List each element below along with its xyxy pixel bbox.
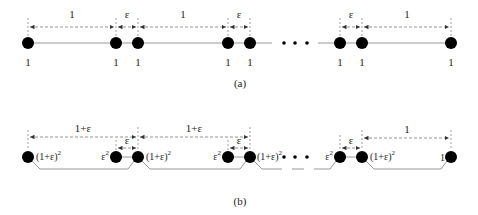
- node: [222, 151, 234, 163]
- spacing-label: ε: [349, 134, 354, 146]
- node: [132, 37, 144, 49]
- panel-a-node-labels: 1 1 1 1 1 1 1 1: [25, 56, 454, 68]
- panel-b: 1+ε ε 1+ε ε ε 1 (1+ε)2 (1+ε)2: [22, 122, 457, 208]
- node: [445, 37, 457, 49]
- spacing-label: ε: [125, 134, 130, 146]
- node: [244, 37, 256, 49]
- node: [356, 37, 368, 49]
- node-label: 1: [448, 56, 454, 68]
- weight-label: (1+ε)2: [146, 149, 172, 163]
- panel-b-caption: (b): [234, 195, 247, 208]
- weight-label: (1+ε)2: [257, 149, 283, 163]
- weight-label: ε2: [213, 149, 221, 162]
- spacing-label: 1: [180, 8, 186, 20]
- weight-label: (1+ε)2: [370, 149, 396, 163]
- node-label: 1: [135, 56, 141, 68]
- panel-b-spacing-labels: 1+ε ε 1+ε ε ε 1: [75, 122, 410, 146]
- node: [132, 151, 144, 163]
- spacing-label: 1: [404, 123, 410, 135]
- spacing-label: ε: [349, 8, 354, 20]
- node-label: 1: [225, 56, 231, 68]
- spacing-label: 1+ε: [186, 122, 203, 134]
- spacing-label: 1+ε: [75, 122, 92, 134]
- panel-a-caption: (a): [234, 77, 247, 90]
- spacing-label: 1: [69, 8, 75, 20]
- node: [244, 151, 256, 163]
- panel-a-spacing-labels: 1 ε 1 ε ε 1: [69, 8, 410, 20]
- node: [222, 37, 234, 49]
- panel-b-ellipsis: [282, 155, 309, 159]
- node-label: 1: [113, 56, 119, 68]
- node: [445, 151, 457, 163]
- node-label: 1: [359, 56, 365, 68]
- spacing-label: ε: [237, 134, 242, 146]
- panel-a: 1 ε 1 ε ε 1 1 1 1 1: [22, 8, 457, 90]
- panel-a-ellipsis: [282, 41, 309, 45]
- node: [356, 151, 368, 163]
- weight-label: (1+ε)2: [36, 149, 62, 163]
- panel-b-brackets: [32, 161, 447, 169]
- weight-label: ε2: [325, 149, 333, 162]
- node-label: 1: [337, 56, 343, 68]
- node: [22, 151, 34, 163]
- spacing-label: ε: [237, 8, 242, 20]
- node-label: 1: [25, 56, 31, 68]
- node: [110, 37, 122, 49]
- weight-label: ε2: [101, 149, 109, 162]
- node: [22, 37, 34, 49]
- node: [110, 151, 122, 163]
- spacing-label: ε: [125, 8, 130, 20]
- diagram-canvas: 1 ε 1 ε ε 1 1 1 1 1: [0, 0, 478, 215]
- node: [334, 37, 346, 49]
- weight-label-last: 1: [440, 152, 445, 163]
- node-label: 1: [247, 56, 253, 68]
- spacing-label: 1: [404, 8, 410, 20]
- node: [334, 151, 346, 163]
